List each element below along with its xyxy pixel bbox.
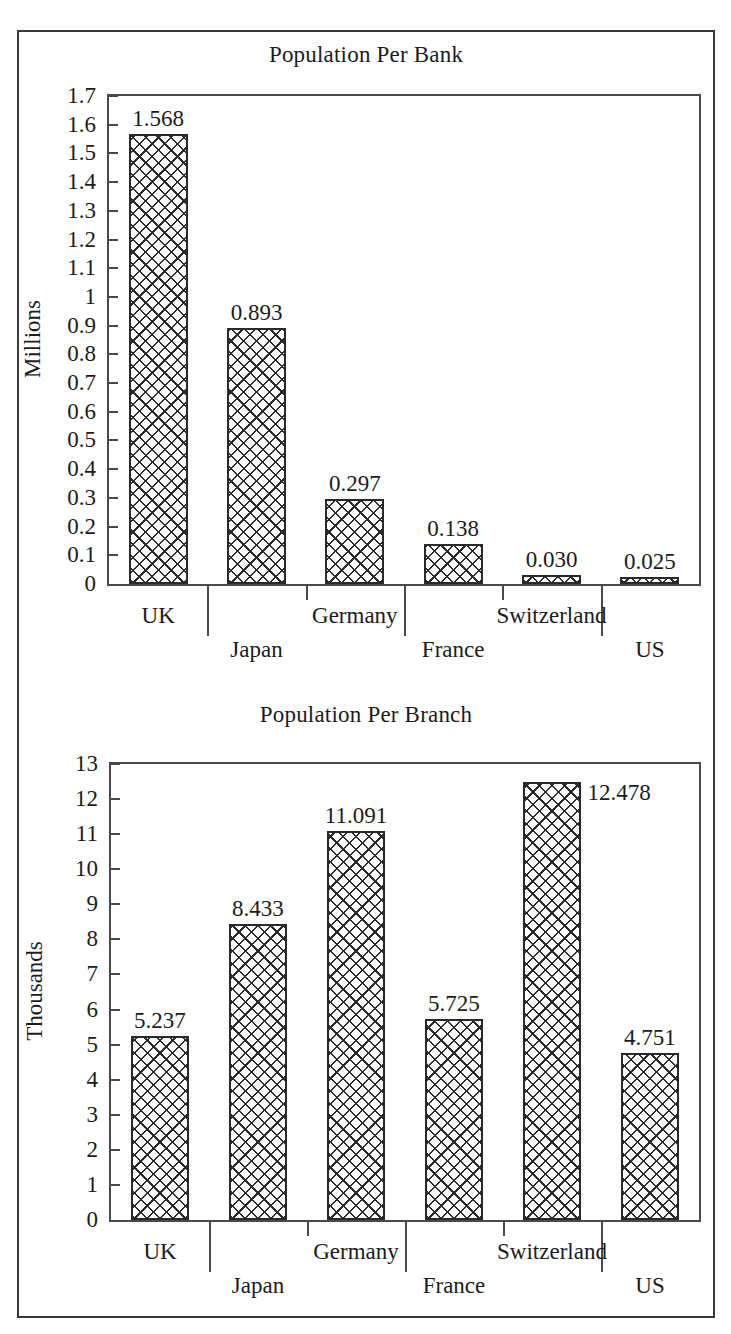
y-tick-label: 0.2 [67, 512, 96, 542]
y-tick-mark [111, 1114, 120, 1116]
page-border: Population Per Bank Millions 1.71.61.51.… [17, 30, 715, 1318]
bar: 0.138 [424, 544, 483, 584]
plot-area-population-per-branch: 1312111098765432105.237UK8.433Japan11.09… [109, 762, 701, 1222]
y-tick-label: 0.7 [67, 368, 96, 398]
x-axis-separator [405, 1220, 407, 1272]
bar-value-label: 11.091 [325, 803, 387, 829]
y-tick-label: 1.4 [67, 167, 96, 197]
bar-value-label: 0.297 [329, 471, 381, 497]
y-tick-mark [109, 95, 118, 97]
y-tick-label: 0.5 [67, 425, 96, 455]
x-axis-separator [404, 584, 406, 636]
y-tick-mark [109, 411, 118, 413]
bar-value-label: 12.478 [587, 780, 650, 806]
y-tick-mark [111, 1184, 120, 1186]
y-tick-mark [109, 181, 118, 183]
y-tick-mark [109, 152, 118, 154]
y-tick-mark [111, 1009, 120, 1011]
y-tick-label: 0.1 [67, 540, 96, 570]
x-axis-category-us: US [635, 636, 664, 664]
clipped-page-caption [40, 1322, 680, 1334]
bar: 11.091 [327, 831, 386, 1220]
bar-value-label: 4.751 [624, 1025, 676, 1051]
bar-value-label: 8.433 [232, 896, 284, 922]
y-tick-mark [109, 468, 118, 470]
chart-title-population-per-bank: Population Per Bank [19, 42, 713, 68]
y-tick-label: 4 [87, 1065, 99, 1095]
y-tick-mark [111, 973, 120, 975]
y-tick-label: 12 [75, 784, 98, 814]
y-tick-label: 1.1 [67, 253, 96, 283]
y-tick-label: 10 [75, 854, 98, 884]
y-tick-mark [109, 124, 118, 126]
x-axis-separator [209, 1220, 211, 1272]
x-axis-separator [307, 1220, 309, 1236]
x-axis-category-france: France [422, 636, 485, 664]
y-tick-label: 11 [76, 819, 98, 849]
y-tick-label: 1.5 [67, 138, 96, 168]
y-tick-mark [111, 1149, 120, 1151]
y-tick-label: 13 [75, 749, 98, 779]
y-axis-label-thousands: Thousands [22, 761, 48, 1221]
y-tick-label: 0.8 [67, 339, 96, 369]
x-axis-category-france: France [423, 1272, 486, 1300]
bar: 5.237 [131, 1036, 190, 1220]
y-tick-mark [109, 325, 118, 327]
y-tick-label: 5 [87, 1030, 99, 1060]
y-tick-label: 0.3 [67, 483, 96, 513]
y-tick-mark [111, 798, 120, 800]
y-tick-mark [109, 439, 118, 441]
y-tick-label: 0.4 [67, 454, 96, 484]
x-axis-category-switzerland: Switzerland [497, 602, 607, 630]
x-axis-category-uk: UK [142, 602, 175, 630]
y-tick-mark [111, 833, 120, 835]
x-axis-separator [503, 1220, 505, 1236]
y-tick-label: 1.2 [67, 225, 96, 255]
y-tick-mark [111, 868, 120, 870]
chart-population-per-bank: Population Per Bank Millions 1.71.61.51.… [19, 32, 713, 652]
x-axis-separator [207, 584, 209, 636]
y-tick-mark [111, 903, 120, 905]
y-axis-label-millions: Millions [20, 93, 46, 585]
bar-value-label: 0.138 [427, 516, 479, 542]
y-tick-label: 2 [87, 1135, 99, 1165]
chart-title-population-per-branch: Population Per Branch [19, 702, 713, 728]
bar: 0.030 [522, 575, 581, 584]
y-tick-mark [109, 497, 118, 499]
bar: 1.568 [129, 134, 188, 584]
bar: 0.893 [227, 328, 286, 584]
bar-value-label: 0.025 [624, 549, 676, 575]
y-tick-mark [111, 1044, 120, 1046]
y-tick-mark [109, 296, 118, 298]
bar-value-label: 0.893 [231, 300, 283, 326]
bar-value-label: 5.725 [428, 991, 480, 1017]
x-axis-separator [502, 584, 504, 600]
y-tick-label: 9 [87, 889, 99, 919]
bar: 0.297 [325, 499, 384, 584]
x-axis-category-japan: Japan [230, 636, 282, 664]
y-tick-mark [109, 554, 118, 556]
y-tick-label: 0 [87, 1205, 99, 1235]
bar: 5.725 [425, 1019, 484, 1220]
y-tick-mark [111, 1079, 120, 1081]
y-tick-mark [109, 267, 118, 269]
bar-value-label: 5.237 [134, 1008, 186, 1034]
y-tick-mark [111, 938, 120, 940]
bar-value-label: 0.030 [526, 547, 578, 573]
x-axis-category-germany: Germany [312, 602, 398, 630]
x-axis-separator [306, 584, 308, 600]
y-tick-label: 1.7 [67, 81, 96, 111]
y-tick-label: 1.3 [67, 196, 96, 226]
x-axis-category-us: US [635, 1272, 664, 1300]
y-tick-label: 0.9 [67, 311, 96, 341]
y-tick-mark [109, 526, 118, 528]
x-axis-category-uk: UK [143, 1238, 176, 1266]
y-tick-mark [111, 763, 120, 765]
bar: 8.433 [229, 924, 288, 1220]
y-tick-label: 8 [87, 924, 99, 954]
y-tick-label: 6 [87, 995, 99, 1025]
y-tick-mark [109, 210, 118, 212]
x-axis-category-japan: Japan [232, 1272, 284, 1300]
y-tick-label: 1.6 [67, 110, 96, 140]
y-tick-mark [109, 353, 118, 355]
